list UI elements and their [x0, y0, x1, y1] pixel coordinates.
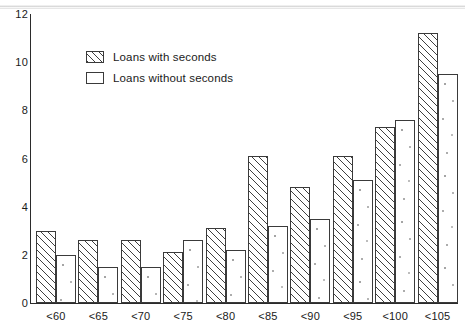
bar-chart-figure: 12 10 8 6 4 2 0 <60<65<70<75<80<85<90<95… — [0, 0, 465, 331]
bar — [98, 267, 118, 303]
bar — [141, 267, 161, 303]
bar — [395, 120, 415, 303]
bar — [226, 250, 246, 303]
bar — [206, 228, 226, 303]
legend-label: Loans without seconds — [113, 72, 233, 84]
bar — [121, 240, 141, 303]
y-axis-tick-labels: 12 10 8 6 4 2 0 — [0, 0, 28, 331]
legend-item-loans-without-seconds: Loans without seconds — [86, 67, 296, 88]
plot-area: 12 10 8 6 4 2 0 <60<65<70<75<80<85<90<95… — [0, 0, 465, 331]
x-axis-line — [30, 303, 458, 304]
chart-legend: Loans with seconds Loans without seconds — [86, 46, 296, 88]
bar — [78, 240, 98, 303]
hatched-swatch-icon — [86, 51, 104, 63]
bar — [248, 156, 268, 303]
bar — [36, 231, 56, 303]
open-swatch-icon — [86, 72, 104, 84]
legend-label: Loans with seconds — [113, 51, 217, 63]
bar — [268, 226, 288, 303]
y-tick-label: 10 — [2, 57, 28, 68]
x-tick-label: <105 — [408, 310, 465, 322]
y-tick-label: 0 — [2, 298, 28, 309]
bar-group — [418, 14, 458, 303]
bar — [418, 33, 438, 303]
bar — [310, 219, 330, 303]
y-tick-label: 12 — [2, 9, 28, 20]
y-tick-label: 2 — [2, 250, 28, 261]
bar — [438, 74, 458, 303]
bar-group — [333, 14, 373, 303]
legend-item-loans-with-seconds: Loans with seconds — [86, 46, 296, 67]
bar — [183, 240, 203, 303]
bar-group — [36, 14, 76, 303]
y-tick-label: 8 — [2, 105, 28, 116]
bar — [353, 180, 373, 303]
bar-group — [290, 14, 330, 303]
y-tick-label: 4 — [2, 202, 28, 213]
bar — [290, 187, 310, 303]
bar-group — [375, 14, 415, 303]
bar — [163, 252, 183, 303]
bar — [56, 255, 76, 303]
y-tick-label: 6 — [2, 154, 28, 165]
bar — [375, 127, 395, 303]
bar — [333, 156, 353, 303]
